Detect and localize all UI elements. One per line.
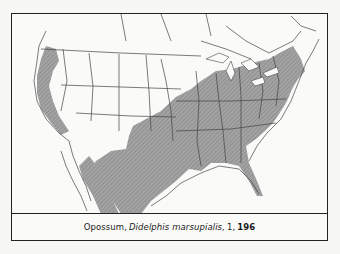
- map-caption: Opossum, Didelphis marsupialis, 1, 196: [12, 213, 327, 240]
- range-map: [12, 14, 327, 214]
- common-name: Opossum,: [84, 222, 127, 232]
- map-figure: Opossum, Didelphis marsupialis, 1, 196: [11, 13, 328, 241]
- volume-number: 1,: [227, 222, 235, 232]
- page-number: 196: [237, 222, 255, 232]
- scientific-name: Didelphis marsupialis,: [129, 222, 225, 232]
